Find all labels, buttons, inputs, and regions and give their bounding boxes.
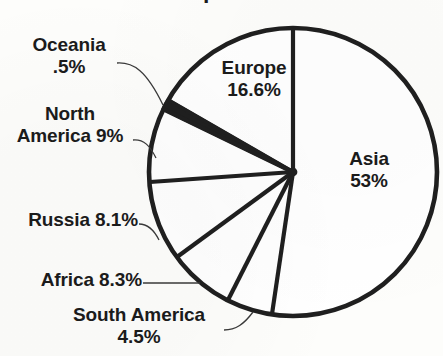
slice-label-russia: Russia 8.1% <box>8 209 138 231</box>
leader-line-south-america <box>224 312 253 330</box>
pie-chart-figure: p Oceania .5% <box>0 0 443 356</box>
slice-label-south-america: South America 4.5% <box>54 304 224 348</box>
slice-label-europe: Europe 16.6% <box>198 57 310 101</box>
slice-label-oceania: Oceania .5% <box>14 34 124 78</box>
slice-label-russia-text: Russia 8.1% <box>28 209 138 230</box>
slice-label-europe-name: Europe <box>198 57 310 79</box>
slice-label-africa-text: Africa 8.3% <box>41 269 142 290</box>
slice-label-south-america-value: 4.5% <box>54 326 224 348</box>
slice-label-europe-value: 16.6% <box>198 79 310 101</box>
slice-label-north-america: North America 9% <box>4 103 136 147</box>
slice-label-north-america-name: North <box>4 103 136 125</box>
pie-center-hub <box>289 168 298 177</box>
slice-label-asia-value: 53% <box>330 170 408 192</box>
leader-line-russia <box>139 224 159 240</box>
slice-label-south-america-name: South America <box>54 304 224 326</box>
slice-label-asia: Asia 53% <box>330 148 408 192</box>
slice-label-oceania-name: Oceania <box>14 34 124 56</box>
slice-label-asia-name: Asia <box>330 148 408 170</box>
slice-label-oceania-value: .5% <box>14 56 124 78</box>
slice-label-africa: Africa 8.3% <box>16 269 142 291</box>
slice-label-north-america-value: America 9% <box>4 125 136 147</box>
